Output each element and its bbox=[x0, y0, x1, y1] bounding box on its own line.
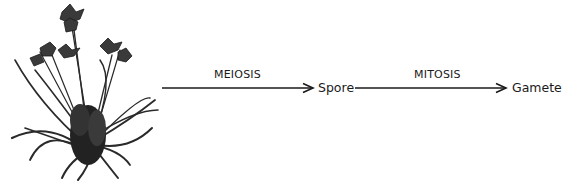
arrow-meiosis bbox=[162, 81, 316, 95]
process-label-meiosis: MEIOSIS bbox=[214, 68, 261, 81]
flowering-plant-illustration bbox=[0, 0, 170, 181]
node-spore: Spore bbox=[318, 80, 354, 95]
arrow-mitosis bbox=[355, 81, 509, 95]
process-label-mitosis: MITOSIS bbox=[414, 68, 461, 81]
node-gamete: Gamete bbox=[512, 80, 562, 95]
